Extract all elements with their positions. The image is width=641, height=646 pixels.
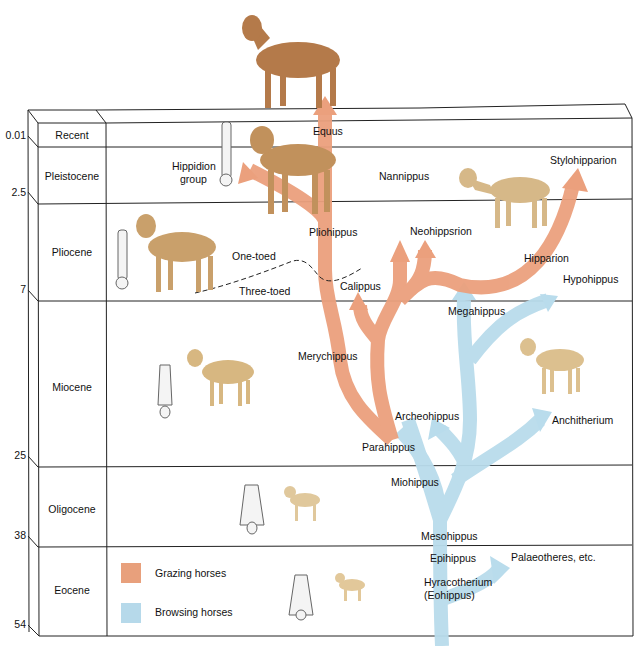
foot-eocene: [289, 575, 313, 615]
age-label: 2.5: [0, 186, 26, 198]
label-parahippus: Parahippus: [362, 441, 415, 453]
label-merychippus: Merychippus: [298, 350, 358, 362]
label-hippidion: Hippidion: [172, 160, 216, 172]
label-anchitherium: Anchitherium: [552, 414, 613, 426]
phylogeny-diagram: [0, 0, 641, 646]
era-recent: Recent: [38, 129, 106, 141]
era-pliocene: Pliocene: [38, 246, 106, 258]
age-label: 54: [0, 618, 26, 630]
horse-hipparion: [459, 168, 550, 228]
era-eocene: Eocene: [38, 584, 106, 596]
label-hipparion: Hipparion: [524, 252, 569, 264]
legend-label-browsing: Browsing horses: [155, 606, 233, 618]
foot-hippidion: [222, 122, 231, 178]
label-archeohippus: Archeohippus: [395, 410, 459, 422]
horse-merychippus: [187, 349, 254, 406]
label-one-toed: One-toed: [232, 250, 276, 262]
label-nannippus: Nannippus: [379, 170, 429, 182]
era-miocene: Miocene: [38, 381, 106, 393]
label-miohippus: Miohippus: [391, 476, 439, 488]
foot-pliocene: [118, 230, 127, 280]
label-hippidion-group: group: [180, 173, 207, 185]
label-equus: Equus: [313, 125, 343, 137]
age-label: 25: [0, 449, 26, 461]
label-eohippus: (Eohippus): [424, 589, 475, 601]
label-palaeotheres: Palaeotheres, etc.: [511, 551, 596, 563]
label-neohipparion: Neohippsrion: [410, 225, 472, 237]
label-hyracotherium: Hyracotherium: [424, 576, 492, 588]
era-pleistocene: Pleistocene: [38, 170, 106, 182]
label-mesohippus: Mesohippus: [421, 530, 478, 542]
legend-label-grazing: Grazing horses: [155, 567, 226, 579]
horse-eohippus: [335, 573, 365, 601]
label-calippus: Calippus: [340, 280, 381, 292]
legend-swatch-grazing: [121, 563, 141, 583]
label-epihippus: Epihippus: [430, 552, 476, 564]
age-label: 0.01: [0, 129, 26, 141]
label-hypohippus: Hypohippus: [563, 273, 618, 285]
label-three-toed: Three-toed: [239, 285, 290, 297]
foot-oligocene: [240, 485, 264, 525]
era-oligocene: Oligocene: [38, 503, 106, 515]
horse-pliocene: [136, 214, 216, 292]
horse-mesohippus: [284, 486, 320, 521]
age-label: 7: [0, 283, 26, 295]
age-label: 38: [0, 529, 26, 541]
horse-equus: [242, 15, 340, 108]
legend-swatch-browsing: [121, 603, 141, 623]
foot-miocene: [158, 365, 172, 405]
label-pliohippus: Pliohippus: [309, 226, 357, 238]
label-megahippus: Megahippus: [448, 305, 505, 317]
label-stylohipparion: Stylohipparion: [550, 154, 617, 166]
horse-anchitherium: [520, 338, 584, 394]
